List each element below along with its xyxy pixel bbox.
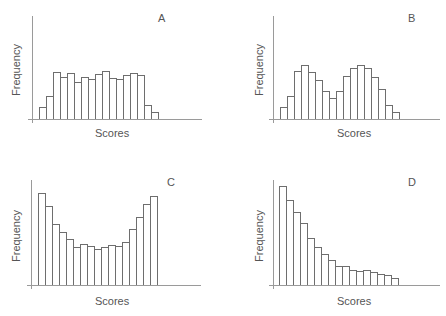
panel-letter: C xyxy=(167,176,175,188)
x-axis xyxy=(269,285,440,286)
y-axis-label: Frequency xyxy=(10,210,22,262)
histogram-bar xyxy=(150,196,158,285)
y-axis-label: Frequency xyxy=(253,210,265,262)
panel-letter: D xyxy=(408,176,416,188)
y-axis xyxy=(273,16,274,123)
x-axis-label: Scores xyxy=(95,127,129,139)
panel-letter: A xyxy=(158,12,165,24)
x-axis xyxy=(269,119,440,120)
x-axis-label: Scores xyxy=(337,295,371,307)
histogram-bar xyxy=(392,112,400,119)
y-axis xyxy=(273,180,274,289)
panel-letter: B xyxy=(408,12,415,24)
y-axis-label: Frequency xyxy=(10,44,22,96)
x-axis xyxy=(28,119,202,120)
y-axis xyxy=(31,180,32,289)
y-axis xyxy=(32,16,33,123)
y-axis-label: Frequency xyxy=(253,44,265,96)
x-axis-label: Scores xyxy=(95,295,129,307)
histogram-bar xyxy=(391,278,399,285)
histogram-bar xyxy=(151,112,159,119)
x-axis-label: Scores xyxy=(337,127,371,139)
x-axis xyxy=(27,285,201,286)
